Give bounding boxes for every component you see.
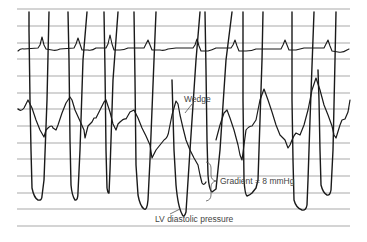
ecg-trace — [18, 35, 349, 52]
wedge-pressure-trace-b — [216, 78, 350, 160]
lv-diastolic-label: LV diastolic pressure — [155, 214, 234, 224]
grid-lines — [17, 9, 350, 226]
wedge-label: Wedge — [184, 94, 211, 104]
pressure-tracing-chart: Wedge Gradient = 8 mmHg LV diastolic pre… — [0, 0, 367, 242]
gradient-label: Gradient = 8 mmHg — [220, 176, 295, 186]
